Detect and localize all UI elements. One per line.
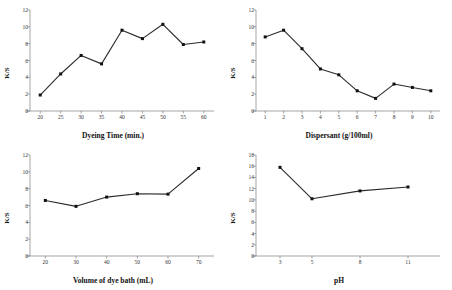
y-tick-label: 6: [25, 203, 28, 209]
x-tick-label: 4: [319, 114, 322, 120]
x-tick-label: 5: [337, 114, 340, 120]
x-axis-title: Volume of dye bath (mL): [0, 276, 226, 285]
x-tick-label: 8: [393, 114, 396, 120]
x-tick-label: 70: [196, 259, 202, 265]
y-tick-label: 8: [25, 41, 28, 47]
x-tick-label: 30: [73, 259, 79, 265]
x-axis-title: pH: [226, 276, 452, 285]
y-tick-label: 8: [25, 186, 28, 192]
y-axis-title: K/S: [229, 212, 237, 223]
y-tick-label: 12: [23, 152, 29, 158]
x-tick-label: 60: [165, 259, 171, 265]
y-tick-label: 10: [23, 169, 29, 175]
x-tick-label: 50: [135, 259, 141, 265]
y-tick-label: 4: [25, 219, 28, 225]
y-tick-label: 10: [249, 24, 255, 30]
y-tick-label: 4: [251, 74, 254, 80]
x-axis-title: Dispersant (g/100ml): [226, 131, 452, 140]
y-tick-label: 10: [23, 24, 29, 30]
plot-area-ph: 02468101214161835811: [256, 155, 440, 256]
x-tick-label: 30: [78, 114, 84, 120]
x-tick-label: 35: [99, 114, 105, 120]
y-tick-label: 2: [251, 242, 254, 248]
x-tick-label: 20: [43, 259, 49, 265]
panel-ph: K/S 02468101214161835811 pH: [226, 145, 452, 290]
x-tick-label: 45: [140, 114, 146, 120]
y-tick-label: 4: [251, 231, 254, 237]
y-tick-label: 12: [249, 186, 255, 192]
y-tick-label: 6: [251, 58, 254, 64]
y-tick-label: 6: [251, 219, 254, 225]
x-tick-label: 11: [405, 259, 410, 265]
y-tick-label: 4: [25, 74, 28, 80]
y-tick-label: 0: [251, 253, 254, 259]
x-tick-label: 50: [160, 114, 166, 120]
panel-dyeing-time: K/S 024681012202530354045505560 Dyeing T…: [0, 0, 226, 145]
y-tick-label: 2: [25, 91, 28, 97]
x-tick-label: 3: [301, 114, 304, 120]
y-tick-label: 6: [25, 58, 28, 64]
x-tick-label: 20: [37, 114, 43, 120]
tick-layer-dyeing-time: 024681012202530354045505560: [30, 10, 214, 111]
plot-area-dispersant: 02468101212345678910: [256, 10, 440, 111]
tick-layer-volume-of-dye-bath: 024681012203040506070: [30, 155, 214, 256]
figure-four-panel-line-charts: K/S 024681012202530354045505560 Dyeing T…: [0, 0, 452, 290]
y-tick-label: 14: [249, 174, 255, 180]
y-tick-label: 16: [249, 163, 255, 169]
y-tick-label: 2: [251, 91, 254, 97]
panel-volume-of-dye-bath: K/S 024681012203040506070 Volume of dye …: [0, 145, 226, 290]
x-tick-label: 1: [264, 114, 267, 120]
x-tick-label: 6: [356, 114, 359, 120]
x-tick-label: 40: [104, 259, 110, 265]
x-tick-label: 9: [411, 114, 414, 120]
x-tick-label: 40: [119, 114, 125, 120]
panel-dispersant: K/S 02468101212345678910 Dispersant (g/1…: [226, 0, 452, 145]
y-tick-label: 8: [251, 208, 254, 214]
x-tick-label: 60: [201, 114, 207, 120]
x-tick-label: 7: [374, 114, 377, 120]
y-tick-label: 8: [251, 41, 254, 47]
x-tick-label: 5: [311, 259, 314, 265]
tick-layer-ph: 02468101214161835811: [256, 155, 440, 256]
x-tick-label: 2: [282, 114, 285, 120]
y-axis-title: K/S: [229, 67, 237, 78]
y-tick-label: 2: [25, 236, 28, 242]
x-tick-label: 25: [58, 114, 64, 120]
x-tick-label: 10: [428, 114, 434, 120]
y-axis-title: K/S: [3, 212, 11, 223]
y-tick-label: 18: [249, 152, 255, 158]
tick-layer-dispersant: 02468101212345678910: [256, 10, 440, 111]
y-tick-label: 0: [251, 108, 254, 114]
x-tick-label: 3: [279, 259, 282, 265]
plot-area-dyeing-time: 024681012202530354045505560: [30, 10, 214, 111]
y-tick-label: 12: [23, 7, 29, 13]
y-tick-label: 10: [249, 197, 255, 203]
x-tick-label: 8: [359, 259, 362, 265]
x-tick-label: 55: [181, 114, 187, 120]
y-tick-label: 0: [25, 108, 28, 114]
y-tick-label: 12: [249, 7, 255, 13]
x-axis-title: Dyeing Time (min.): [0, 131, 226, 140]
plot-area-volume-of-dye-bath: 024681012203040506070: [30, 155, 214, 256]
y-axis-title: K/S: [3, 67, 11, 78]
y-tick-label: 0: [25, 253, 28, 259]
